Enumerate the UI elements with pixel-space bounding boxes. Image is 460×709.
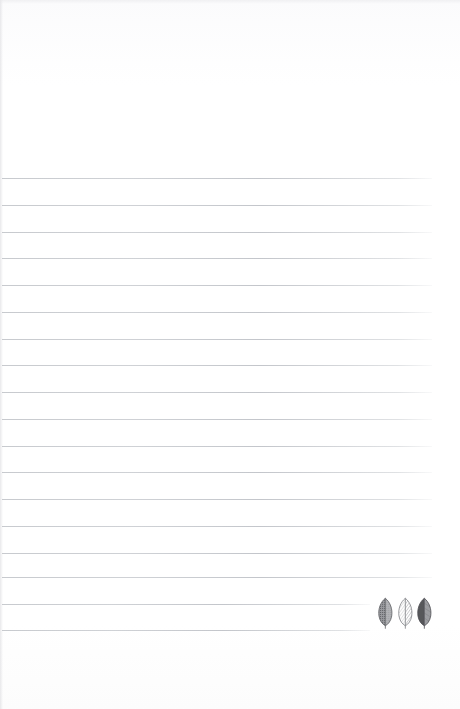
- ruled-line: [2, 232, 432, 233]
- leaf-solid-icon: [415, 596, 434, 630]
- ruled-line: [2, 419, 432, 420]
- ruled-line: [2, 178, 432, 179]
- leaf-stippled-icon: [376, 596, 395, 630]
- ruled-line: [2, 630, 370, 631]
- ruled-line: [2, 312, 432, 313]
- leaf-trio-illustration: [376, 596, 434, 630]
- ruled-line: [2, 339, 432, 340]
- ruled-line: [2, 285, 432, 286]
- ruled-line: [2, 205, 432, 206]
- ruled-line: [2, 472, 432, 473]
- ruled-line: [2, 392, 432, 393]
- ruled-line: [2, 446, 432, 447]
- ruled-line: [2, 577, 432, 578]
- ruled-line: [2, 365, 432, 366]
- ruled-line: [2, 526, 432, 527]
- leaf-hatched-icon: [396, 596, 415, 630]
- ruled-line: [2, 258, 432, 259]
- ruled-line: [2, 604, 370, 605]
- ruled-line: [2, 553, 432, 554]
- notepaper-page: Blank ruled notepaper page: [0, 0, 460, 709]
- ruled-line: [2, 499, 432, 500]
